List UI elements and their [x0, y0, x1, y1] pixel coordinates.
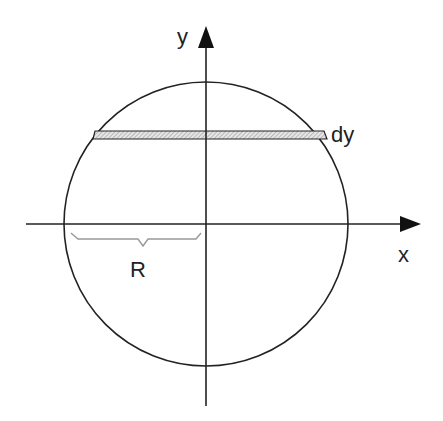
y-axis [198, 26, 214, 406]
x-axis-label: x [398, 242, 409, 267]
diagram-canvas: y x dy R [0, 0, 443, 421]
radius-brace [71, 233, 201, 246]
x-axis-arrow-icon [400, 216, 421, 232]
strip-dy [93, 131, 327, 139]
y-axis-label: y [177, 24, 188, 49]
y-axis-arrow-icon [198, 26, 214, 48]
x-axis [26, 216, 421, 232]
strip-label: dy [331, 122, 354, 147]
radius-label: R [130, 257, 146, 282]
